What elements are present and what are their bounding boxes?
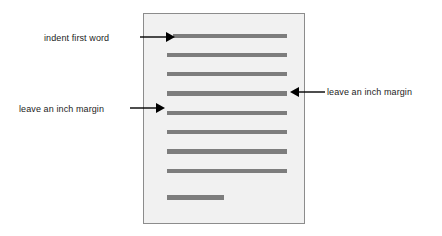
text-line-6 (167, 130, 287, 134)
text-line-7 (167, 149, 287, 154)
annotation-label-indent-first-word: indent first word (44, 33, 109, 44)
arrow-left-icon-right-margin (289, 86, 325, 98)
text-line-1-indented (173, 34, 287, 38)
arrow-right-icon-left-margin (130, 102, 165, 114)
text-line-2 (167, 53, 287, 57)
text-line-5 (167, 111, 287, 115)
text-line-4 (167, 91, 287, 96)
page-sheet (143, 13, 305, 224)
annotation-label-right-margin: leave an inch margin (327, 87, 412, 98)
text-line-8 (167, 169, 287, 173)
annotation-label-left-margin: leave an inch margin (19, 104, 104, 115)
text-line-3 (167, 72, 287, 76)
text-line-9-partial (167, 195, 224, 200)
manuscript-page-formatting-diagram: indent first word leave an inch margin l… (0, 0, 442, 236)
arrow-right-icon-indent-first-word (140, 31, 175, 43)
